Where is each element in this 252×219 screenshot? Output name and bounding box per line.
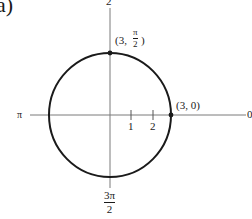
axis-label-pi: π <box>17 110 22 120</box>
point-label-prefix: (3, <box>115 34 127 46</box>
polar-graph-canvas <box>0 0 252 219</box>
point-top <box>108 51 113 56</box>
point-label-right: (3, 0) <box>176 100 200 111</box>
point-label-top-fraction: π 2 <box>133 28 138 49</box>
fraction-numerator: 3π <box>104 190 115 201</box>
axis-label-top: 2 <box>106 0 112 7</box>
part-label: a) <box>0 0 13 16</box>
fraction-denominator: 2 <box>107 204 113 215</box>
tick-label-1: 1 <box>128 121 134 132</box>
tick-label-2: 2 <box>150 121 156 132</box>
point-right <box>169 113 174 118</box>
axis-label-3pi-over-2: 3π 2 <box>104 190 115 215</box>
polar-graph-figure: a) 2 π 0 3π 2 1 2 (3, π 2 ) (3, 0) <box>0 0 252 219</box>
point-label-top-suffix: ) <box>141 35 145 46</box>
fraction-denominator: 2 <box>133 40 138 49</box>
point-label-top: (3, <box>115 35 127 46</box>
fraction-numerator: π <box>133 28 138 37</box>
axis-label-zero: 0 <box>247 109 252 120</box>
